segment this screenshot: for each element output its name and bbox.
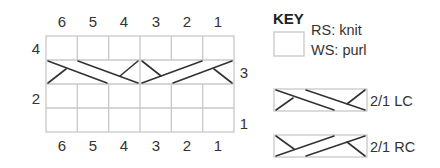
cable-strand: [48, 61, 107, 83]
cable-strand: [48, 69, 66, 83]
column-number: 2: [183, 137, 191, 154]
key-label-ws: WS: purl: [311, 42, 367, 58]
cable-strand: [78, 61, 138, 83]
row-label: 2: [32, 90, 40, 107]
key-title: KEY: [273, 10, 304, 27]
cable-2-1-rc-symbol: [142, 61, 232, 83]
row-label: 1: [240, 115, 248, 132]
column-number: 1: [214, 13, 222, 30]
key-2-1-rc-icon: [276, 136, 365, 156]
column-number: 6: [58, 137, 66, 154]
column-number: 4: [120, 13, 128, 30]
key-label-lc: 2/1 LC: [370, 93, 413, 109]
row-label: 4: [32, 40, 40, 57]
chart-key: KEY RS: knit WS: purl 2/1 LC 2/1 RC: [273, 10, 415, 157]
column-number: 3: [152, 13, 160, 30]
cable-2-1-lc-symbol: [48, 61, 138, 83]
column-number: 3: [152, 137, 160, 154]
column-number: 4: [120, 137, 128, 154]
row-label: 3: [240, 64, 248, 81]
column-number: 2: [183, 13, 191, 30]
knitting-chart-diagram: 6 5 4 3 2 1 4 2 3 1: [0, 0, 440, 168]
column-numbers-top: 6 5 4 3 2 1: [58, 13, 222, 30]
chart-grid: [46, 36, 234, 132]
key-label-rc: 2/1 RC: [370, 139, 415, 155]
key-2-1-lc-icon: [276, 90, 365, 110]
cable-strand: [120, 61, 138, 76]
column-numbers-bottom: 6 5 4 3 2 1: [58, 137, 222, 154]
column-number: 6: [58, 13, 66, 30]
column-number: 1: [214, 137, 222, 154]
column-number: 5: [89, 13, 97, 30]
cable-strand: [142, 61, 161, 76]
cable-strand: [173, 61, 232, 83]
cable-strand: [142, 61, 202, 83]
column-number: 5: [89, 137, 97, 154]
cable-strand: [214, 69, 232, 83]
key-label-rs: RS: knit: [311, 22, 362, 38]
knit-purl-symbol: [274, 32, 304, 56]
